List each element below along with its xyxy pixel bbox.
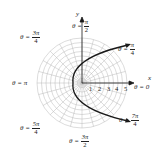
radial-tick-3: 3 — [107, 86, 110, 93]
angle-label-5pi-over-4: θ = 5π4 — [20, 121, 40, 135]
angle-label-0: θ = 0 — [134, 84, 149, 91]
radial-tick-4: 4 — [115, 86, 118, 93]
radial-tick-5: 5 — [124, 86, 127, 93]
angle-label-3pi-over-2: θ = 3π2 — [69, 134, 89, 148]
angle-label-pi-over-2: θ = π2 — [72, 19, 89, 33]
angle-label-3pi-over-4: θ = 3π4 — [20, 30, 40, 44]
angle-label-pi: θ = π — [12, 80, 27, 87]
angle-label-pi-over-4: θ = π4 — [118, 42, 135, 56]
x-axis-label: x — [148, 75, 151, 82]
angle-label-7pi-over-4: θ = 7π4 — [119, 113, 139, 127]
radial-tick-2: 2 — [98, 86, 101, 93]
y-axis-label: y — [76, 11, 79, 18]
radial-tick-1: 1 — [89, 86, 92, 93]
